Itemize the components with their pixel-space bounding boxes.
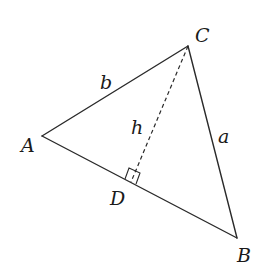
side-label-a: a (218, 125, 229, 147)
vertex-label-a: A (19, 134, 35, 156)
vertex-label-c: C (195, 24, 210, 46)
triangle-diagram: C A B D b a h (0, 0, 258, 272)
side-a-line (188, 46, 237, 238)
right-angle-marker (125, 168, 140, 184)
altitude-h-line (131, 46, 188, 182)
side-c-line (42, 136, 237, 238)
vertex-label-b: B (236, 244, 251, 266)
altitude-label-h: h (131, 116, 143, 138)
vertex-label-d: D (109, 187, 125, 209)
side-b-line (42, 46, 188, 136)
side-label-b: b (100, 71, 112, 93)
